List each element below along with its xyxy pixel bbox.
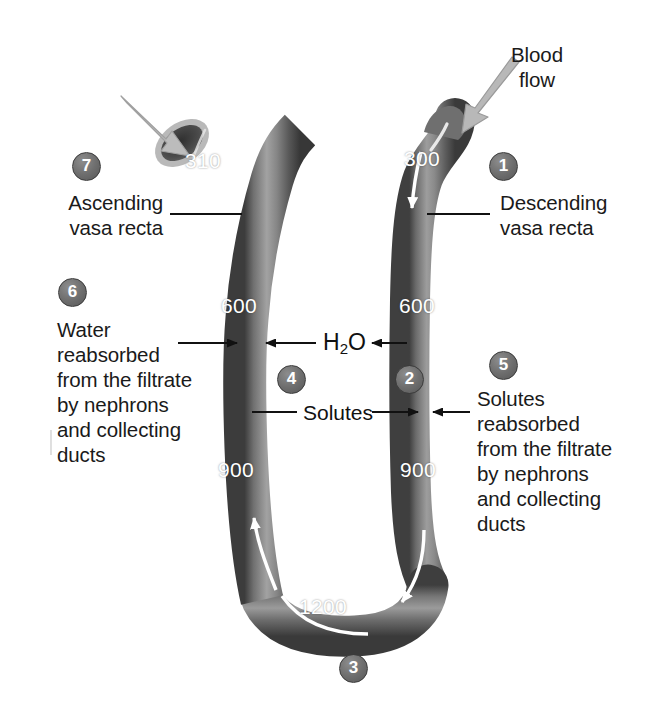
osmolarity-ascending-600: 600 (221, 295, 257, 316)
step-marker-6[interactable]: 6 (58, 278, 87, 307)
h2o-o: O (348, 329, 366, 355)
h2o-formula-label: H2O (323, 331, 366, 356)
solutes-midline-label: Solutes (303, 402, 373, 423)
osmolarity-descending-600: 600 (399, 295, 435, 316)
solutes-reabsorbed-label: Solutes reabsorbed from the filtrate by … (477, 386, 647, 536)
osmolarity-descending-300: 300 (404, 148, 440, 169)
osmolarity-descending-900: 900 (400, 459, 436, 480)
step-marker-2[interactable]: 2 (395, 365, 424, 394)
step-marker-5[interactable]: 5 (489, 351, 518, 380)
water-reabsorbed-label: Water reabsorbed from the filtrate by ne… (57, 317, 192, 467)
blood-flow-label: Blood flow (477, 42, 597, 92)
osmolarity-ascending-900: 900 (218, 459, 254, 480)
step-marker-4[interactable]: 4 (277, 365, 306, 394)
ascending-vasa-recta-label: Ascending vasa recta (8, 190, 163, 240)
step-marker-3[interactable]: 3 (339, 654, 368, 683)
osmolarity-ascending-310: 310 (185, 150, 221, 171)
osmolarity-hairpin-1200: 1200 (299, 596, 347, 617)
step-marker-7[interactable]: 7 (72, 152, 101, 181)
step-marker-1[interactable]: 1 (489, 152, 518, 181)
descending-vasa-recta-vessel (409, 106, 466, 585)
h2o-h: H (323, 329, 340, 355)
descending-vasa-recta-label: Descending vasa recta (500, 190, 650, 240)
h2o-subscript: 2 (340, 340, 348, 357)
vasa-recta-diagram: 300 600 900 1200 900 600 310 Blood flow … (0, 0, 659, 726)
